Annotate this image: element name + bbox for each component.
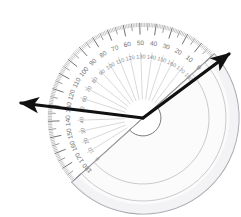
protractor-minor-tick: [50, 138, 54, 139]
protractor-minor-tick: [170, 27, 171, 31]
protractor-mid-tick: [55, 81, 62, 84]
inner-scale-label: 10: [87, 146, 95, 154]
outer-scale-label: 80: [98, 49, 108, 59]
protractor-minor-tick: [54, 84, 58, 86]
protractor-mid-tick: [191, 38, 195, 44]
protractor-minor-tick: [180, 31, 182, 35]
protractor-minor-tick: [95, 36, 97, 40]
protractor-minor-tick: [49, 103, 53, 104]
protractor-mid-tick: [131, 24, 132, 32]
protractor-minor-tick: [162, 25, 163, 29]
outer-scale-label: 40: [150, 39, 158, 47]
protractor-minor-tick: [49, 134, 53, 135]
protractor-minor-tick: [195, 40, 197, 43]
protractor-minor-tick: [120, 26, 121, 30]
inner-scale-label: 150: [157, 55, 168, 64]
inner-scale-label: 130: [136, 53, 145, 59]
protractor-minor-tick: [60, 162, 64, 164]
protractor-minor-tick: [52, 146, 56, 147]
outer-scale-label: 140: [64, 115, 71, 126]
outer-scale-label: 50: [137, 39, 145, 46]
protractor-minor-tick: [61, 69, 65, 71]
protractor-mid-tick: [50, 97, 58, 99]
protractor-minor-tick: [57, 76, 61, 78]
protractor-minor-tick: [51, 142, 55, 143]
protractor-minor-tick: [181, 32, 183, 36]
protractor-minor-tick: [103, 32, 105, 36]
protractor-minor-tick: [176, 29, 178, 33]
protractor-minor-tick: [90, 39, 92, 42]
protractor-mid-tick: [86, 42, 91, 48]
protractor-mid-tick: [100, 33, 104, 40]
protractor-minor-tick: [128, 24, 129, 28]
protractor-minor-tick: [167, 26, 168, 30]
protractor-major-tick: [68, 59, 77, 66]
protractor-major-tick: [52, 89, 63, 93]
outer-scale-label: 120: [66, 88, 76, 101]
protractor-minor-tick: [49, 132, 53, 133]
protractor-minor-tick: [49, 101, 53, 102]
protractor-minor-tick: [57, 158, 61, 160]
protractor-minor-tick: [160, 25, 161, 29]
inner-scale-label: 20: [82, 137, 90, 145]
protractor-minor-tick: [88, 40, 90, 43]
protractor-minor-tick: [57, 78, 61, 80]
protractor-mid-tick: [49, 129, 57, 130]
inner-scale-label: 80: [90, 76, 98, 85]
protractor-minor-tick: [55, 154, 59, 156]
outer-scale-label: 150: [65, 127, 74, 139]
protractor-minor-tick: [114, 27, 115, 31]
protractor-major-tick: [194, 43, 201, 52]
protractor-minor-tick: [97, 35, 99, 39]
protractor-minor-tick: [51, 143, 55, 144]
outer-scale-label: 70: [110, 43, 120, 52]
protractor-major-tick: [79, 47, 87, 56]
protractor-minor-tick: [104, 31, 106, 35]
protractor-minor-tick: [53, 148, 57, 149]
protractor-mid-tick: [177, 30, 180, 37]
protractor-minor-tick: [61, 164, 65, 166]
inner-scale-label: 60: [81, 95, 89, 103]
protractor-outline: [72, 54, 239, 214]
protractor-minor-tick: [157, 24, 158, 28]
inner-scale-label: 40: [78, 117, 84, 123]
protractor-mid-tick: [67, 171, 73, 176]
inner-scale-label: 30: [79, 127, 86, 134]
inner-scale-label: 140: [147, 53, 157, 60]
protractor-minor-tick: [130, 24, 131, 28]
protractor-minor-tick: [117, 26, 118, 30]
protractor-minor-tick: [110, 29, 111, 33]
protractor-minor-tick: [183, 32, 185, 36]
protractor-minor-tick: [126, 24, 127, 28]
protractor-minor-tick: [189, 36, 191, 40]
protractor-minor-tick: [54, 149, 58, 150]
protractor-minor-tick: [52, 90, 56, 91]
protractor-minor-tick: [51, 92, 55, 93]
protractor-minor-tick: [54, 151, 58, 153]
protractor-minor-tick: [50, 100, 54, 101]
protractor-minor-tick: [118, 26, 119, 30]
protractor-minor-tick: [56, 155, 60, 157]
protractor-minor-tick: [106, 30, 108, 34]
inner-scale-label: 120: [125, 54, 135, 62]
outer-scale-label: 90: [87, 57, 97, 67]
outer-scale-label: 160: [68, 140, 79, 153]
protractor-mid-tick: [58, 158, 65, 162]
protractor-minor-tick: [50, 135, 54, 136]
protractor-minor-tick: [125, 25, 126, 29]
protractor-minor-tick: [51, 95, 55, 96]
protractor-figure: 0102030405060708090100110120130140150160…: [0, 0, 241, 217]
protractor-mid-tick: [203, 48, 208, 54]
protractor-minor-tick: [112, 28, 113, 32]
protractor-major-tick: [169, 27, 173, 38]
protractor-minor-tick: [51, 140, 55, 141]
protractor-minor-tick: [190, 36, 192, 40]
protractor-minor-tick: [51, 93, 55, 94]
ray-left: [21, 103, 143, 118]
protractor-minor-tick: [109, 29, 111, 33]
protractor-minor-tick: [101, 32, 103, 36]
protractor-minor-tick: [50, 98, 54, 99]
protractor-minor-tick: [53, 87, 57, 88]
protractor-minor-tick: [173, 28, 174, 32]
protractor-minor-tick: [61, 70, 65, 72]
